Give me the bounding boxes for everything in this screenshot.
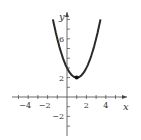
y-tick-label: 6 [59,35,64,44]
y-tick-label: 2 [59,74,64,83]
x-tick-label: 4 [103,101,108,110]
x-tick-label: −2 [39,101,51,110]
tick-labels: −4−224−226 [19,35,108,122]
axes [12,12,127,136]
x-tick-label: 2 [84,101,89,110]
parabola-chart: −4−224−226 x y [0,0,141,140]
vertex-point [75,76,79,80]
y-tick-label: −2 [52,112,64,121]
parabola-curve [53,19,101,77]
x-tick-label: −4 [19,101,31,110]
x-axis-label: x [123,101,129,112]
y-axis-label: y [58,11,65,22]
